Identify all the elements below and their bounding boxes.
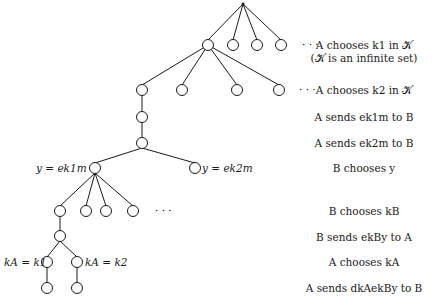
step-1-note: (𝒦 is an infinite set) bbox=[284, 52, 444, 64]
step-7: B sends ekBy to A bbox=[284, 231, 444, 243]
step-2: A chooses k2 in 𝒦 bbox=[284, 84, 444, 96]
node-label-y-left: y = ek1m bbox=[36, 162, 87, 174]
node bbox=[203, 40, 214, 51]
step-9: A sends dkAekBy to B bbox=[284, 282, 444, 294]
step-6: B chooses kB bbox=[284, 205, 444, 217]
step-1: A chooses k1 in 𝒦 bbox=[284, 39, 444, 51]
step-3: A sends ek1m to B bbox=[284, 111, 444, 123]
ellipsis-kb: · · · bbox=[155, 205, 172, 217]
node-label-ka-right: kA = k2 bbox=[85, 256, 127, 268]
step-5: B chooses y bbox=[284, 162, 444, 174]
step-4: A sends ek2m to B bbox=[284, 137, 444, 149]
node-label-ka-left: kA = k1 bbox=[4, 256, 46, 268]
step-8: A chooses kA bbox=[284, 256, 444, 268]
node-label-y-right: y = ek2m bbox=[202, 162, 253, 174]
